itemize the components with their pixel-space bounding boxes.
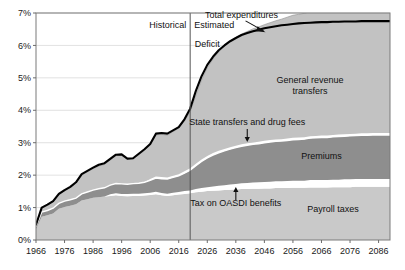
xtick-label-1996: 1996 (112, 246, 132, 256)
label-historical: Historical (149, 20, 186, 30)
annotation-premiums: Premiums (301, 151, 342, 161)
xtick-label-2086: 2086 (369, 246, 389, 256)
xtick-label-2016: 2016 (169, 246, 189, 256)
xtick-label-2026: 2026 (197, 246, 217, 256)
xtick-label-1976: 1976 (55, 246, 75, 256)
chart-container: 0%1%2%3%4%5%6%7% 19661976198619962006201… (0, 0, 405, 270)
xtick-label-2076: 2076 (340, 246, 360, 256)
annotation-deficit: Deficit (195, 39, 221, 49)
ytick-label-3: 3% (18, 138, 31, 148)
xtick-label-2036: 2036 (226, 246, 246, 256)
annotation-total-expenditures: Total expenditures (205, 10, 279, 20)
xtick-label-1966: 1966 (26, 246, 46, 256)
ytick-label-6: 6% (18, 41, 31, 51)
ytick-label-5: 5% (18, 73, 31, 83)
label-estimated: Estimated (194, 20, 234, 30)
ytick-label-0: 0% (18, 235, 31, 245)
ytick-label-2: 2% (18, 170, 31, 180)
xtick-label-2046: 2046 (254, 246, 274, 256)
xtick-label-2066: 2066 (311, 246, 331, 256)
annotation-payroll-taxes: Payroll taxes (307, 204, 359, 214)
xtick-label-1986: 1986 (83, 246, 103, 256)
ytick-label-7: 7% (18, 8, 31, 18)
ytick-label-1: 1% (18, 203, 31, 213)
xtick-label-2056: 2056 (283, 246, 303, 256)
annotation-state-transfers-and-drug-fees: State transfers and drug fees (189, 117, 306, 127)
xtick-label-2006: 2006 (140, 246, 160, 256)
medicare-expenditures-area-chart: 0%1%2%3%4%5%6%7% 19661976198619962006201… (0, 0, 405, 270)
ytick-label-4: 4% (18, 105, 31, 115)
